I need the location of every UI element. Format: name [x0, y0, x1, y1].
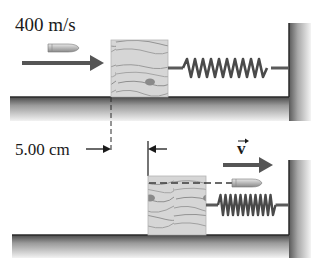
compressed-spring-icon [206, 195, 289, 215]
velocity-arrow-icon [22, 55, 104, 71]
exit-velocity-arrow-icon [223, 157, 273, 173]
bottom-floor [12, 235, 290, 258]
velocity-label: v [237, 139, 246, 159]
displacement-label: 5.00 cm [15, 140, 70, 160]
top-panel [10, 23, 311, 121]
bullet-icon [48, 44, 79, 52]
top-wall [289, 23, 311, 121]
top-floor [10, 97, 290, 121]
spring-icon [168, 59, 289, 77]
initial-speed-label: 400 m/s [15, 14, 76, 36]
diagram-canvas [0, 0, 326, 258]
bottom-wall [289, 160, 311, 258]
exiting-bullet-icon [232, 179, 262, 187]
wooden-block [111, 40, 168, 97]
displaced-wooden-block [148, 176, 206, 235]
displacement-arrow-right-icon [148, 145, 167, 153]
displacement-arrow-left-icon [86, 145, 111, 153]
